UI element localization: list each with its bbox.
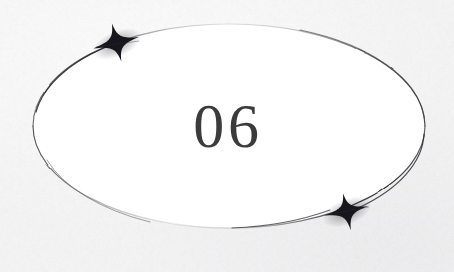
artwork-container: 06 [0,0,454,272]
page-canvas: 06 [0,0,454,272]
ellipse-artwork [0,0,454,272]
